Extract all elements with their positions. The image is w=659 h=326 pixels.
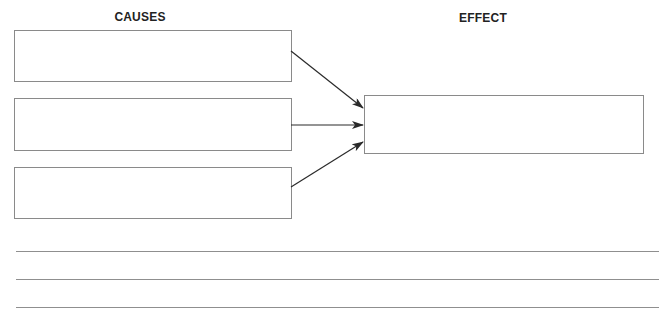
arrow-cause-3-to-effect bbox=[291, 142, 363, 187]
connector-arrows bbox=[0, 0, 659, 326]
writing-line-2[interactable] bbox=[16, 279, 659, 280]
writing-line-3[interactable] bbox=[16, 307, 659, 308]
writing-line-1[interactable] bbox=[16, 251, 659, 252]
arrow-cause-1-to-effect bbox=[291, 51, 363, 108]
